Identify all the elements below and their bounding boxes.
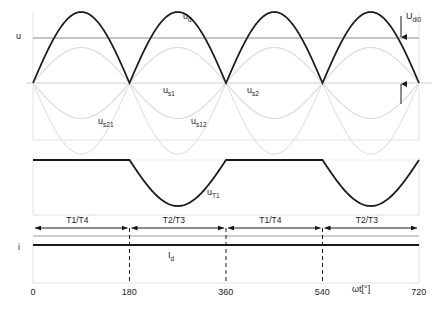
us1-label-sub: s1 (168, 90, 175, 97)
ud-label-sub: d (188, 16, 192, 23)
diagram-canvas (0, 0, 440, 309)
ut1-label-sub: T1 (212, 192, 220, 199)
us21-label-sub: s21 (103, 121, 113, 128)
x-tick-360: 360 (218, 288, 233, 297)
us12-label: us12 (191, 117, 207, 128)
x-tick-0: 0 (30, 288, 35, 297)
udi0-label-sub: di0 (413, 16, 422, 23)
interval-label-1: T2/T3 (163, 216, 185, 225)
id-label: Id (168, 251, 174, 262)
us1-label: us1 (163, 86, 175, 97)
current-axis-label: i (18, 243, 20, 252)
voltage-axis-label: u (16, 32, 21, 41)
interval-label-2: T1/T4 (259, 216, 281, 225)
ut1-label: uT1 (207, 188, 220, 199)
udi0-label: Udi0 (406, 12, 421, 23)
us12-label-sub: s12 (196, 121, 206, 128)
voltage-panel (33, 12, 419, 140)
x-tick-180: 180 (122, 288, 137, 297)
x-tick-720: 720 (411, 288, 426, 297)
us21-label: us21 (98, 117, 114, 128)
interval-label-0: T1/T4 (66, 216, 88, 225)
thyristor-panel (33, 158, 419, 215)
ud-label: ud (183, 12, 192, 23)
interval-label-3: T2/T3 (356, 216, 378, 225)
us2-label: us2 (247, 86, 259, 97)
x-axis-label: ωt[°] (352, 285, 370, 294)
waveform-diagram: u i ud Udi0 us1 us2 us21 us12 uT1 Id ωt[… (0, 0, 440, 309)
us2-label-sub: s2 (252, 90, 259, 97)
rectified-voltage-curve (33, 12, 419, 83)
current-panel (33, 240, 419, 283)
id-label-sub: d (171, 255, 175, 262)
x-tick-540: 540 (315, 288, 330, 297)
thyristor-voltage-curve (33, 160, 419, 206)
